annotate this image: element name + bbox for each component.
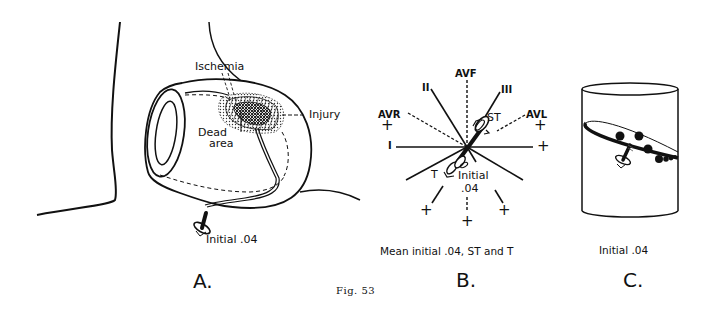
lead-avr-axis [408, 113, 467, 147]
cylinder-top [582, 83, 678, 95]
heart-illustration [0, 0, 360, 313]
avf-positive-pole: + [461, 214, 474, 229]
t-label: T [431, 169, 438, 180]
lead-i-label: I [388, 141, 392, 151]
initial-04-vector-icon [614, 145, 633, 168]
initial-vector-label: Initial .04 [206, 234, 257, 245]
dead-area-label-line2: area [209, 138, 234, 149]
lead-i-positive-pole: + [537, 139, 550, 154]
cylinder-illustration [560, 0, 713, 313]
lead-iii-label: III [501, 85, 512, 95]
ischemia-label: Ischemia [195, 61, 244, 72]
st-label: ST [487, 112, 501, 123]
lead-ii-positive-pole: + [498, 203, 511, 218]
panel-a-heart-diagram: Ischemia Injury Dead area Initial .04 A. [0, 0, 360, 313]
lead-avf-label: AVF [455, 69, 477, 79]
panel-c-cylinder-model: Initial .04 C. [560, 0, 713, 313]
panel-b-letter: B. [456, 270, 476, 290]
lead-avl-axis [497, 115, 525, 131]
panel-b-hexaxial-diagram: AVF II III AVR AVL I ST T Initial .04 + … [370, 0, 570, 313]
avl-positive-pole: + [534, 118, 547, 133]
panel-c-letter: C. [623, 270, 643, 290]
lead-ii-label: II [422, 83, 429, 93]
injury-label: Injury [309, 109, 340, 120]
hexaxial-reference-system [370, 0, 570, 313]
initial-label-line1: Initial [458, 170, 488, 181]
panel-a-letter: A. [193, 271, 213, 291]
initial-label-line2: .04 [461, 183, 479, 194]
figure-caption: Fig. 53 [336, 285, 375, 296]
avr-positive-pole: + [381, 118, 394, 133]
panel-c-caption: Initial .04 [599, 244, 648, 256]
initial-04-vector-icon [453, 154, 469, 169]
panel-b-caption: Mean initial .04, ST and T [380, 245, 513, 257]
lead-ii-axis [431, 89, 467, 147]
lead-iii-positive-pole: + [420, 203, 433, 218]
